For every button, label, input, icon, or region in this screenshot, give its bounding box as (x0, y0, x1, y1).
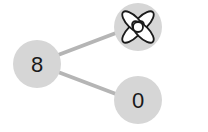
edge-left-to-top-right (58, 33, 116, 55)
edge-left-to-bottom-right (58, 72, 116, 94)
node-top-right (114, 3, 162, 51)
node-label: 8 (31, 52, 43, 77)
graph-diagram: 8 0 (0, 0, 208, 132)
node-left: 8 (13, 40, 61, 88)
node-label: 0 (132, 88, 144, 113)
node-bottom-right: 0 (114, 76, 162, 124)
